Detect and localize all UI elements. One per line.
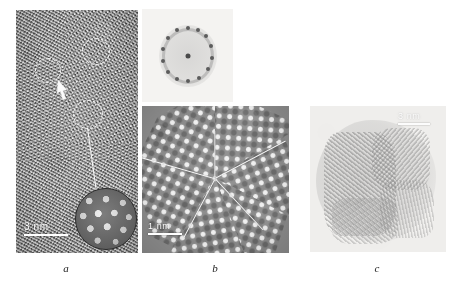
scalebar-line-b (148, 233, 182, 235)
panel-caption-a: a (56, 262, 76, 274)
marker-circle-3 (73, 100, 103, 129)
diffraction-spot (166, 36, 170, 40)
inset-shading (76, 189, 136, 249)
panel-a-image: 3 nm (16, 10, 138, 253)
magnified-inset-circle (75, 188, 137, 250)
scalebar-label-c: 3 nm (398, 112, 420, 121)
pointer-arrow-icon (56, 78, 76, 100)
marker-circle-2 (82, 38, 110, 65)
twin-boundary-line (214, 131, 215, 179)
scalebar-line-a (24, 234, 68, 236)
scalebar-label-a: 3 nm (24, 222, 49, 232)
figure-container: 3 nm (0, 0, 461, 291)
diffraction-spot (210, 56, 214, 60)
diffraction-spot (206, 67, 210, 71)
diffraction-spot (166, 70, 170, 74)
panel-caption-c: c (367, 262, 387, 274)
diffraction-spot (161, 47, 165, 51)
panel-c-image: 3 nm (310, 106, 446, 252)
diffraction-spot (186, 79, 190, 83)
panel-caption-b: b (205, 262, 225, 274)
diffraction-spot (175, 77, 179, 81)
diffraction-spot (204, 34, 208, 38)
panel-b-diffraction-inset (142, 9, 233, 102)
diffraction-spot (197, 76, 201, 80)
diffraction-spot (209, 44, 213, 48)
diffraction-spot (175, 28, 179, 32)
scalebar-panel-b: 1 nm (148, 222, 182, 235)
panel-b-image: 1 nm (142, 106, 289, 253)
diffraction-spot (161, 59, 165, 63)
scalebar-panel-a: 3 nm (24, 222, 68, 236)
scalebar-label-b: 1 nm (148, 222, 170, 231)
diffraction-spot (186, 26, 190, 30)
panel-c-grain-overlay (310, 106, 446, 252)
scalebar-line-c (398, 123, 430, 125)
scalebar-panel-c: 3 nm (398, 112, 430, 125)
diffraction-spot (196, 28, 200, 32)
diffraction-center-spot (185, 53, 190, 58)
